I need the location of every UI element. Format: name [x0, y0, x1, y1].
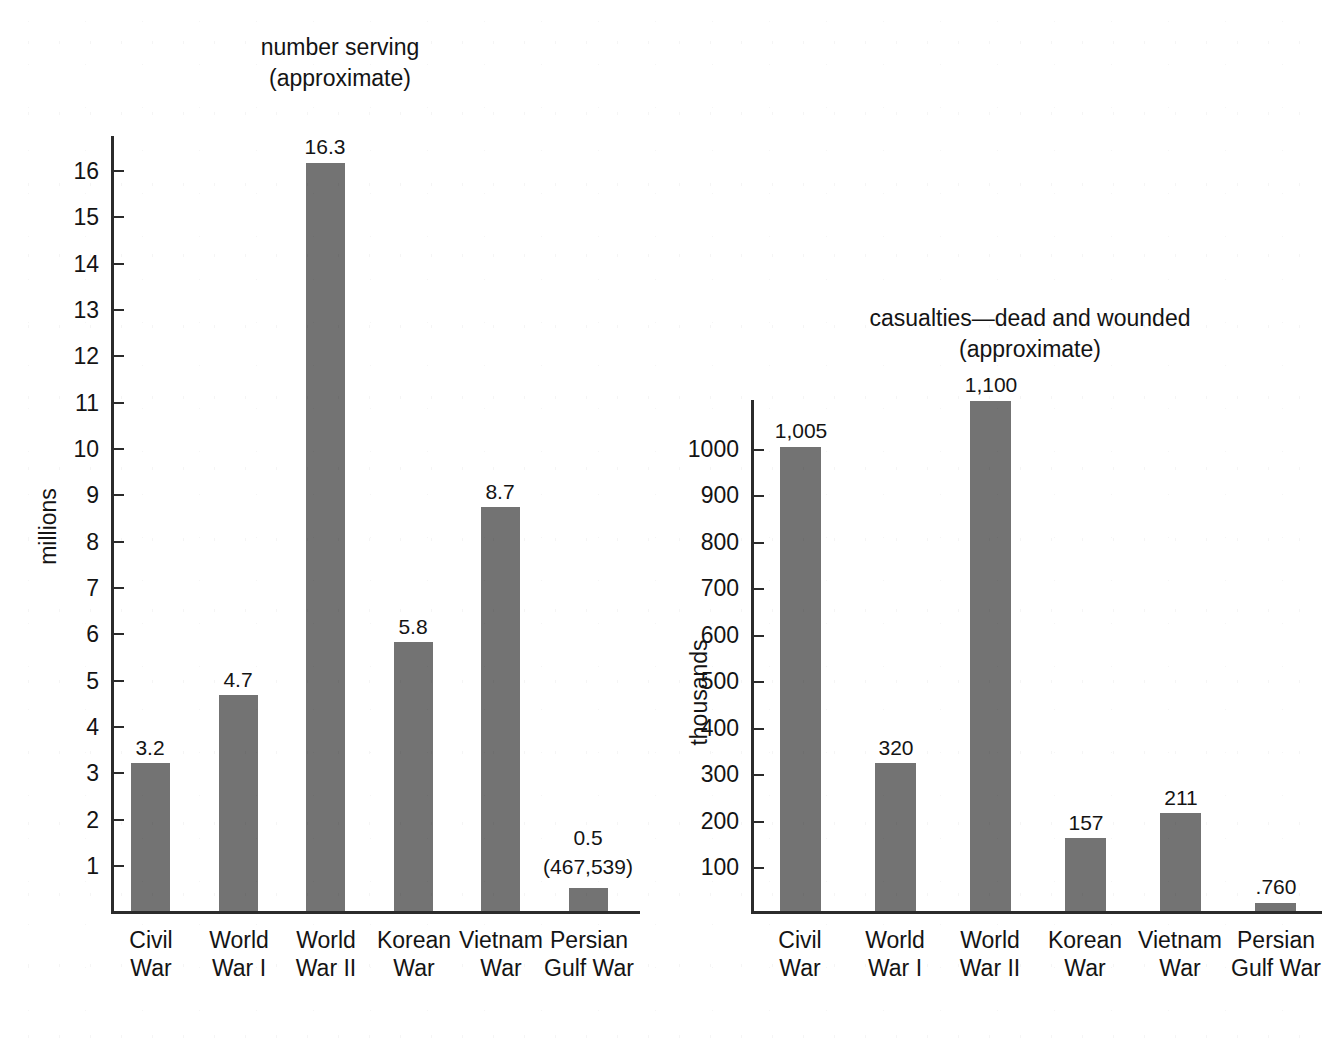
- right-chart-tick: [751, 635, 764, 637]
- category-label: Persian Gulf War: [1215, 926, 1322, 982]
- left-chart-tick: [111, 263, 124, 265]
- right-chart-tick-label: 100: [650, 856, 739, 879]
- left-chart-tick: [111, 355, 124, 357]
- left-chart-tick: [111, 633, 124, 635]
- category-label-line1: Korean: [1030, 926, 1140, 954]
- bar-value-label: .760: [1235, 874, 1317, 899]
- left-chart-y-axis-line: [111, 136, 114, 914]
- category-label: Korean War: [1030, 926, 1140, 982]
- category-label: World War II: [935, 926, 1045, 982]
- left-chart-tick-label: 11: [39, 392, 99, 415]
- bar-value-label: 157: [1045, 810, 1127, 835]
- category-label-line1: Persian: [528, 926, 650, 954]
- right-chart-tick: [751, 588, 764, 590]
- left-chart-tick-label: 10: [39, 438, 99, 461]
- bar: [1160, 813, 1201, 911]
- left-chart-tick-label: 6: [39, 623, 99, 646]
- right-chart-tick: [751, 542, 764, 544]
- category-label-line2: Gulf War: [528, 954, 650, 982]
- right-chart-x-axis-line: [751, 911, 1322, 914]
- left-chart-x-axis-line: [111, 911, 640, 914]
- left-chart-plot: 16 15 14 13 12 11 10 9 8 7 6 5 4 3 2 1: [0, 0, 680, 1042]
- bar-value-label: 3.2: [110, 735, 190, 760]
- category-label: Persian Gulf War: [528, 926, 650, 982]
- left-chart-tick-label: 8: [39, 531, 99, 554]
- left-chart-tick: [111, 170, 124, 172]
- left-chart-tick-label: 9: [39, 484, 99, 507]
- bar: [394, 642, 433, 911]
- category-label-line2: War I: [840, 954, 950, 982]
- left-chart-tick: [111, 819, 124, 821]
- right-chart-tick-label: 200: [650, 810, 739, 833]
- bar-value-label: 1,100: [950, 372, 1032, 397]
- bar-chart-figure: { "figure": { "background_color": "#ffff…: [0, 0, 1322, 1042]
- left-chart-tick-label: 5: [39, 670, 99, 693]
- category-label-line2: War: [745, 954, 855, 982]
- left-chart-tick: [111, 402, 124, 404]
- bar-sub-value-label: (467,539): [518, 854, 658, 879]
- left-chart-tick: [111, 309, 124, 311]
- left-chart-tick-label: 3: [39, 762, 99, 785]
- category-label: World War I: [840, 926, 950, 982]
- bar-value-label: 16.3: [285, 134, 365, 159]
- right-chart-tick-label: 400: [650, 717, 739, 740]
- left-chart-tick-label: 2: [39, 809, 99, 832]
- right-chart-tick: [751, 449, 764, 451]
- left-chart-tick-label: 13: [39, 299, 99, 322]
- left-chart-tick: [111, 726, 124, 728]
- right-chart-tick: [751, 681, 764, 683]
- bar: [306, 163, 345, 911]
- category-label: Civil War: [745, 926, 855, 982]
- bar: [780, 447, 821, 911]
- category-label-line1: World: [840, 926, 950, 954]
- right-chart-tick: [751, 821, 764, 823]
- left-chart-tick-label: 1: [39, 855, 99, 878]
- left-chart-tick: [111, 772, 124, 774]
- category-label-line1: Persian: [1215, 926, 1322, 954]
- right-chart-tick: [751, 867, 764, 869]
- right-chart-tick-label: 900: [650, 484, 739, 507]
- right-chart-tick: [751, 495, 764, 497]
- left-chart-tick: [111, 680, 124, 682]
- right-chart-plot: 1000 900 800 700 600 500 400 300 200 100…: [640, 0, 1322, 1042]
- right-chart-y-axis-line: [751, 400, 754, 914]
- right-chart-panel: casualties—dead and wounded (approximate…: [640, 0, 1322, 1042]
- left-chart-tick: [111, 216, 124, 218]
- right-chart-tick-label: 300: [650, 763, 739, 786]
- right-chart-tick-label: 500: [650, 670, 739, 693]
- bar: [481, 507, 520, 911]
- bar-value-label: 5.8: [373, 614, 453, 639]
- left-chart-tick-label: 7: [39, 577, 99, 600]
- right-chart-tick: [751, 728, 764, 730]
- bar: [875, 763, 916, 911]
- category-label-line2: War II: [935, 954, 1045, 982]
- left-chart-tick: [111, 865, 124, 867]
- left-chart-tick-label: 14: [39, 253, 99, 276]
- bar: [219, 695, 258, 911]
- left-chart-panel: number serving (approximate) millions 16…: [0, 0, 680, 1042]
- bar-value-label: 320: [855, 735, 937, 760]
- bar: [1255, 903, 1296, 911]
- left-chart-tick: [111, 494, 124, 496]
- right-chart-tick-label: 1000: [650, 438, 739, 461]
- bar-value-label: 211: [1140, 785, 1222, 810]
- bar-value-label: 8.7: [460, 479, 540, 504]
- category-label-line2: Gulf War: [1215, 954, 1322, 982]
- right-chart-tick-label: 800: [650, 531, 739, 554]
- left-chart-tick-label: 4: [39, 716, 99, 739]
- bar: [1065, 838, 1106, 911]
- category-label-line1: Civil: [745, 926, 855, 954]
- category-label-line2: War: [1030, 954, 1140, 982]
- bar: [131, 763, 170, 911]
- left-chart-tick: [111, 448, 124, 450]
- left-chart-tick-label: 16: [39, 160, 99, 183]
- bar-value-label: 0.5: [548, 825, 628, 850]
- bar-value-label: 1,005: [760, 418, 842, 443]
- right-chart-tick-label: 700: [650, 577, 739, 600]
- bar-value-label: 4.7: [198, 667, 278, 692]
- left-chart-tick-label: 12: [39, 345, 99, 368]
- category-label-line1: World: [935, 926, 1045, 954]
- left-chart-tick-label: 15: [39, 206, 99, 229]
- right-chart-tick-label: 600: [650, 624, 739, 647]
- bar: [970, 401, 1011, 911]
